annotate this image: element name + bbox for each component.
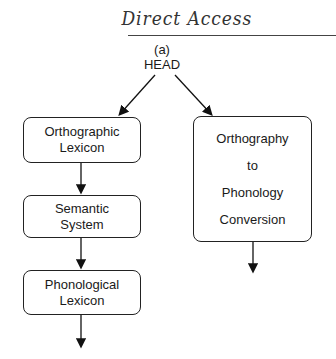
box-phonological-lexicon: Phonological Lexicon [23,270,141,315]
box-label-line1: Semantic [55,201,109,217]
box-label-line1: Orthographic [44,124,119,140]
box-label-line2: to [247,158,258,174]
box-label-line3: Phonology [222,185,283,201]
box-orthography-to-phonology-conversion: Orthography to Phonology Conversion [193,116,312,242]
box-orthographic-lexicon: Orthographic Lexicon [23,117,141,163]
box-label-line1: Phonological [45,277,119,293]
box-label-line2: System [60,217,103,233]
box-label-line2: Lexicon [60,293,105,309]
box-label-line4: Conversion [220,212,286,228]
box-label-line1: Orthography [216,131,288,147]
box-semantic-system: Semantic System [23,195,141,238]
box-label-line2: Lexicon [60,140,105,156]
